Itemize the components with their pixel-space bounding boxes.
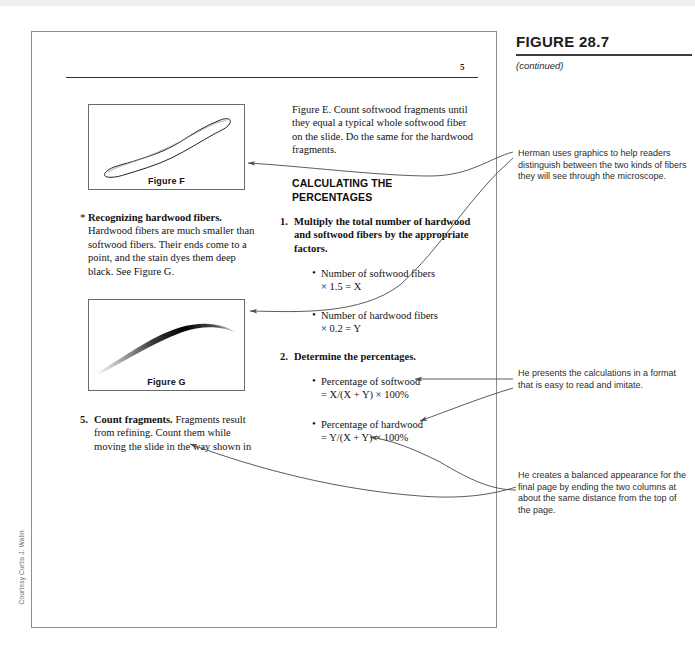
figure-f-box: Figure F (88, 104, 245, 190)
bullet-dot-icon: • (312, 374, 316, 387)
step-2-marker: 2. (280, 350, 288, 363)
bullet-hardwood-line2: × 0.2 = Y (321, 323, 361, 334)
figure-page: FIGURE 28.7 (continued) 5 Figure F (0, 0, 695, 657)
bullet-percentage-hardwood: • Percentage of hardwood = Y/(X + Y) × 1… (312, 418, 497, 445)
step-1-paragraph: 1. Multiply the total number of hardwood… (280, 215, 475, 255)
figure-f-caption: Figure F (89, 176, 244, 186)
hardwood-note-paragraph: * Recognizing hardwood fibers. Hardwood … (88, 211, 260, 278)
section-heading: CALCULATING THE PERCENTAGES (292, 176, 472, 204)
bullet-softwood-line2: × 1.5 = X (321, 281, 361, 292)
figure-title-underline (516, 54, 692, 56)
bullet-pct-softwood-line2: = X/(X + Y) × 100% (321, 389, 409, 400)
step-1-text: Multiply the total number of hardwood an… (280, 215, 475, 255)
bullet-hardwood-line1: Number of hardwood fibers (321, 310, 438, 321)
top-edge-band (0, 0, 695, 6)
bullet-softwood-fibers: • Number of softwood fibers × 1.5 = X (312, 267, 497, 294)
figure-title: FIGURE 28.7 (516, 33, 609, 50)
hardwood-note-run-in: Recognizing hardwood fibers. (88, 212, 222, 223)
page-number: 5 (460, 62, 465, 72)
photo-credit: Courtesy Curtis J. Walin (18, 515, 25, 605)
figure-g-caption: Figure G (89, 377, 244, 387)
count-fragments-run-in: Count fragments. (94, 414, 173, 425)
annotation-calculations-format: He presents the calculations in a format… (518, 368, 690, 391)
figure-e-paragraph: Figure E. Count softwood fragments until… (292, 103, 478, 157)
annotation-balanced-appearance: He creates a balanced appearance for the… (518, 470, 690, 516)
bullet-dot-icon: • (312, 417, 316, 430)
annotation-graphics-help: Herman uses graphics to help readers dis… (518, 148, 690, 183)
bullet-softwood-line1: Number of softwood fibers (321, 268, 435, 279)
bullet-percentage-softwood: • Percentage of softwood = X/(X + Y) × 1… (312, 375, 497, 402)
bullet-dot-icon: • (312, 308, 316, 321)
step-2-paragraph: 2. Determine the percentages. (280, 350, 475, 363)
figure-g-box: Figure G (88, 299, 245, 391)
count-fragments-marker: 5. (80, 413, 88, 426)
asterisk-marker: * (80, 211, 86, 224)
hardwood-note-body: Hardwood fibers are much smaller than so… (88, 225, 254, 276)
bullet-hardwood-fibers: • Number of hardwood fibers × 0.2 = Y (312, 309, 497, 336)
page-header-rule (66, 77, 478, 78)
step-1-marker: 1. (280, 215, 288, 228)
step-2-text: Determine the percentages. (280, 350, 475, 363)
bullet-dot-icon: • (312, 266, 316, 279)
count-fragments-paragraph: 5. Count fragments. Fragments result fro… (80, 413, 265, 453)
bullet-pct-softwood-line1: Percentage of softwood (321, 376, 420, 387)
bullet-pct-hardwood-line2: = Y/(X + Y) × 100% (321, 432, 408, 443)
bullet-pct-hardwood-line1: Percentage of hardwood (321, 419, 423, 430)
figure-continued-label: (continued) (516, 60, 564, 71)
